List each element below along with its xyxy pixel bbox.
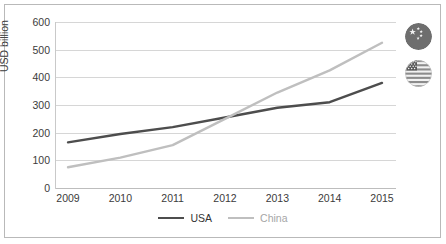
x-tick-label: 2011 [161,192,184,204]
legend-label: China [260,212,287,224]
x-axis-line [56,188,396,189]
legend-label: USA [190,212,212,224]
series-lines [56,22,396,188]
y-tick-label: 400 [6,71,50,83]
flag-china-icon [405,23,432,50]
y-tick-label: 500 [6,44,50,56]
x-tick-label: 2014 [318,192,341,204]
x-tick-label: 2009 [56,192,79,204]
x-tick-label: 2015 [370,192,393,204]
y-tick-label: 200 [6,127,50,139]
line-chart: USD billion 0100200300400500600 20092010… [0,0,446,244]
legend-item-usa[interactable]: USA [158,212,212,224]
series-line-china [68,43,382,168]
y-tick-label: 0 [6,182,50,194]
usa-flag-badge [405,60,432,87]
legend-item-china[interactable]: China [228,212,287,224]
legend-swatch-china [228,217,254,220]
x-tick-label: 2013 [266,192,289,204]
flag-usa-icon [405,60,432,87]
legend-swatch-usa [158,217,184,220]
y-tick-label: 100 [6,154,50,166]
y-axis-ticks: 0100200300400500600 [0,22,50,188]
plot-area [56,22,396,188]
chart-legend: USAChina [0,212,446,224]
x-axis-ticks: 2009201020112012201320142015 [56,192,396,208]
x-tick-label: 2012 [213,192,236,204]
y-tick-label: 300 [6,99,50,111]
china-flag-badge [405,23,432,50]
x-tick-label: 2010 [109,192,132,204]
series-line-usa [68,83,382,142]
y-tick-label: 600 [6,16,50,28]
